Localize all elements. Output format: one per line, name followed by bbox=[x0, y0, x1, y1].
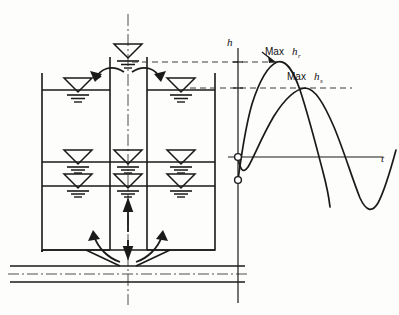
inflow-arrow-right bbox=[136, 230, 168, 262]
y-axis-label: h bbox=[227, 36, 233, 48]
max-riser-subscript: r bbox=[298, 52, 301, 60]
max-riser-word: Max bbox=[265, 46, 284, 57]
chart-axes bbox=[228, 48, 382, 303]
start-point-lower bbox=[235, 177, 242, 184]
start-point-upper bbox=[235, 154, 242, 161]
max-tank-subscript: s bbox=[320, 77, 323, 85]
tank-water-surface-lines bbox=[42, 90, 215, 186]
curve-riser-head bbox=[238, 62, 330, 207]
riser-upflow-arrow bbox=[124, 200, 132, 258]
inflow-arrow-left bbox=[88, 230, 120, 262]
max-tank-word: Max bbox=[287, 71, 306, 82]
overflow-arrow-left bbox=[90, 68, 124, 82]
surge-tank-schematic bbox=[8, 14, 247, 305]
overflow-arrow-right bbox=[132, 68, 166, 82]
oscillation-chart: h t Max h r Max h s bbox=[227, 36, 396, 303]
surge-tank-figure: h t Max h r Max h s bbox=[0, 0, 399, 315]
max-tank-label: Max h s bbox=[287, 70, 323, 85]
max-riser-label: Max h r bbox=[265, 45, 301, 60]
x-axis-label: t bbox=[381, 152, 385, 164]
